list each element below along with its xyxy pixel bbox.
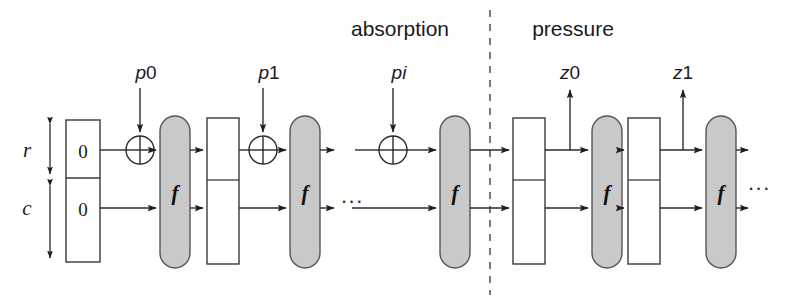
output-z1: z1 xyxy=(672,62,693,150)
input-label-p0-prefix: p xyxy=(134,62,146,83)
xor-gate-pi xyxy=(379,136,407,164)
xor-gate-p1 xyxy=(249,136,277,164)
phase-label-pressure: pressure xyxy=(532,17,614,40)
output-z0: z0 xyxy=(559,62,580,150)
output-label-z1-index: 1 xyxy=(682,62,693,83)
rail-label-r: r xyxy=(23,138,32,162)
input-p1: p1 xyxy=(257,62,279,132)
f-block-absorb-i: f xyxy=(440,116,470,268)
initial-state-lower-zero: 0 xyxy=(78,199,88,220)
state-box-squeeze-0 xyxy=(513,118,545,264)
rail-label-c: c xyxy=(22,196,32,220)
input-label-p1-prefix: p xyxy=(257,62,269,83)
output-label-z1: z1 xyxy=(672,62,693,83)
ellipsis-right: ... xyxy=(748,170,771,195)
state-box-absorb-1 xyxy=(207,118,239,264)
input-label-pi-index: i xyxy=(402,62,407,83)
input-label-p1: p1 xyxy=(257,62,279,83)
xor-gate-p0 xyxy=(126,136,154,164)
input-label-p1-index: 1 xyxy=(269,62,280,83)
input-label-pi-prefix: p xyxy=(391,62,403,83)
output-label-z0: z0 xyxy=(559,62,580,83)
initial-state-box: 0 0 xyxy=(66,120,100,262)
output-label-z1-prefix: z xyxy=(672,62,683,83)
f-block-squeeze-1: f xyxy=(706,116,736,268)
rail-dimension-c: c xyxy=(22,186,50,258)
f-block-squeeze-0: f xyxy=(592,116,622,268)
input-p0: p0 xyxy=(134,62,156,132)
f-block-absorb-1: f xyxy=(290,116,320,268)
output-label-z0-index: 0 xyxy=(569,62,580,83)
phase-label-absorption: absorption xyxy=(351,17,449,40)
input-pi: pi xyxy=(391,62,408,132)
ellipsis-absorption: ... xyxy=(341,183,364,208)
f-block-absorb-0: f xyxy=(160,116,190,268)
diagram-canvas: absorption pressure r c 0 0 p0 xyxy=(0,0,785,302)
sponge-construction-figure: absorption pressure r c 0 0 p0 xyxy=(0,0,785,302)
input-label-pi: pi xyxy=(391,62,408,83)
rail-dimension-r: r xyxy=(23,124,50,174)
state-box-squeeze-1 xyxy=(628,118,660,264)
initial-state-upper-zero: 0 xyxy=(78,141,88,162)
output-label-z0-prefix: z xyxy=(559,62,570,83)
input-label-p0-index: 0 xyxy=(146,62,157,83)
input-label-p0: p0 xyxy=(134,62,156,83)
